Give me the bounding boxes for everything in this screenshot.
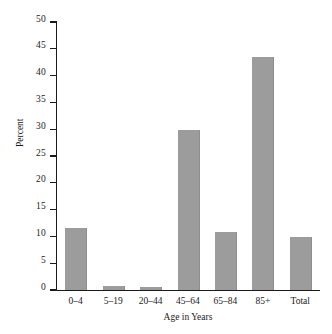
x-axis-tick-label: 20–44 xyxy=(132,297,169,307)
y-axis-tick-label: 35 xyxy=(36,95,46,105)
x-axis-tick-label: 0–4 xyxy=(57,297,94,307)
y-axis-title: Percent xyxy=(16,98,26,168)
y-axis-tick-mark xyxy=(50,129,56,130)
y-axis-tick-label: 30 xyxy=(36,122,46,132)
y-axis-tick-mark xyxy=(50,182,56,183)
y-axis-tick-label: 15 xyxy=(36,202,46,212)
y-axis-tick-label: 50 xyxy=(36,15,46,25)
y-axis-tick-mark xyxy=(50,75,56,76)
x-axis-title: Age in Years xyxy=(57,313,319,323)
y-axis-tick-mark xyxy=(50,263,56,264)
bar xyxy=(252,57,274,290)
y-axis-tick-label: 25 xyxy=(36,149,46,159)
y-axis-tick-mark xyxy=(50,289,56,290)
y-axis-tick-label: 45 xyxy=(36,41,46,51)
y-axis-tick-mark xyxy=(50,155,56,156)
bar xyxy=(215,232,237,290)
x-axis-tick-label: Total xyxy=(282,297,319,307)
y-axis-tick-mark xyxy=(50,236,56,237)
x-axis-tick-label: 5–19 xyxy=(94,297,131,307)
y-axis-tick-label: 5 xyxy=(41,256,46,266)
y-axis-tick-mark xyxy=(50,21,56,22)
y-axis-tick-mark xyxy=(50,209,56,210)
plot-area xyxy=(57,22,319,290)
y-axis-tick-mark xyxy=(50,48,56,49)
x-axis-tick-label: 65–84 xyxy=(207,297,244,307)
x-axis-tick-label: 85+ xyxy=(244,297,281,307)
y-axis-tick-label: 10 xyxy=(36,229,46,239)
x-axis-tick-label: 45–64 xyxy=(169,297,206,307)
bar-chart-figure: Percent 05101520253035404550 0–45–1920–4… xyxy=(0,0,332,334)
bar xyxy=(178,130,200,290)
bar xyxy=(140,287,162,290)
bar xyxy=(65,228,87,290)
y-axis-tick-label: 40 xyxy=(36,68,46,78)
y-axis-tick-label: 0 xyxy=(41,283,46,293)
y-axis-tick-mark xyxy=(50,102,56,103)
bar xyxy=(103,286,125,290)
bar xyxy=(290,237,312,290)
y-axis-tick-label: 20 xyxy=(36,175,46,185)
